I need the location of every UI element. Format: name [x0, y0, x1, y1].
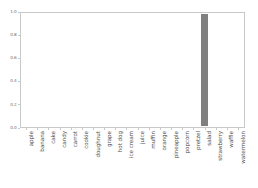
bar-slot — [110, 14, 121, 126]
x-axis-tick-mark — [182, 128, 183, 130]
y-axis-tick-label: 0.8 — [10, 33, 18, 37]
x-axis-tick — [43, 128, 54, 130]
x-axis-label-slot: waffle — [222, 131, 233, 188]
x-axis-tick-mark — [138, 128, 139, 130]
y-axis-tick: 0.2 — [10, 101, 20, 109]
bar-slot — [77, 14, 88, 126]
bar-slot — [66, 14, 77, 126]
bar-slot — [121, 14, 132, 126]
x-axis-tick — [66, 128, 77, 130]
y-axis-tick: 1.0 — [10, 8, 20, 16]
x-axis-tick-mark — [37, 128, 38, 130]
x-axis-label-slot: strawberry — [211, 131, 222, 188]
y-axis-tick-label: 0.4 — [10, 79, 18, 83]
y-axis-tick-label: 0.6 — [10, 56, 18, 60]
bar-slot — [221, 14, 232, 126]
x-axis-tick — [233, 128, 244, 130]
x-axis-tick-mark — [93, 128, 94, 130]
x-axis-tick-mark — [115, 128, 116, 130]
x-axis-label-slot: popcorn — [177, 131, 188, 188]
x-axis-label-slot: banana — [32, 131, 43, 188]
bar-slot — [155, 14, 166, 126]
bar-slot — [88, 14, 99, 126]
x-axis-label-slot: pineapple — [166, 131, 177, 188]
y-axis-tick: 0.0 — [10, 124, 20, 132]
bar-slot — [55, 14, 66, 126]
x-axis-label-slot: cookie — [77, 131, 88, 188]
x-axis-tick-mark — [104, 128, 105, 130]
x-axis-tick-mark — [238, 128, 239, 130]
x-axis-tick-mark — [193, 128, 194, 130]
x-axis-tick — [155, 128, 166, 130]
bar-slot — [166, 14, 177, 126]
x-axis-label-slot: watermelon — [233, 131, 244, 188]
x-axis-label-slot: candy — [54, 131, 65, 188]
x-axis-label-slot: orange — [155, 131, 166, 188]
x-axis-label-watermelon: watermelon — [241, 131, 247, 164]
x-axis-tick — [211, 128, 222, 130]
x-axis-tick — [121, 128, 132, 130]
x-axis-labels: applebananacakecandycarrotcookiedoughnut… — [21, 131, 244, 188]
bars-layer — [22, 14, 243, 126]
bar-slot — [22, 14, 33, 126]
x-axis-label-slot: grape — [99, 131, 110, 188]
x-axis-label-slot: apple — [21, 131, 32, 188]
x-axis-tick — [177, 128, 188, 130]
bar-slot — [144, 14, 155, 126]
y-axis-tick: 0.4 — [10, 78, 20, 86]
y-axis-tick-label: 0.0 — [10, 126, 18, 130]
x-axis-label-slot: ice cream — [121, 131, 132, 188]
y-axis-tick: 0.8 — [10, 31, 20, 39]
x-axis-label-slot: hot dog — [110, 131, 121, 188]
x-axis-label-slot: doughnut — [88, 131, 99, 188]
x-axis-tick-mark — [149, 128, 150, 130]
x-axis-tick — [144, 128, 155, 130]
bar-slot — [188, 14, 199, 126]
bar-slot — [232, 14, 243, 126]
bar-slot — [99, 14, 110, 126]
x-axis-tick — [32, 128, 43, 130]
y-axis-tick: 0.6 — [10, 54, 20, 62]
x-axis-label-slot: juice — [133, 131, 144, 188]
x-axis-label-slot: carrot — [66, 131, 77, 188]
x-axis-tick-mark — [171, 128, 172, 130]
plot-area — [20, 12, 245, 128]
x-axis-label-slot: cake — [43, 131, 54, 188]
x-axis-tick — [133, 128, 144, 130]
x-axis-label-slot: pretzel — [188, 131, 199, 188]
x-axis-tick — [110, 128, 121, 130]
x-axis-tick — [77, 128, 88, 130]
bar-chart-figure: 0.00.20.40.60.81.0 applebananacakecandyc… — [0, 0, 258, 188]
bar-slot — [199, 14, 210, 126]
bar-salad[interactable] — [201, 14, 208, 126]
bar-slot — [44, 14, 55, 126]
x-axis-label-slot: salad — [200, 131, 211, 188]
x-axis-label-slot: muffin — [144, 131, 155, 188]
x-axis-tick-mark — [216, 128, 217, 130]
x-axis-tick-mark — [71, 128, 72, 130]
bar-slot — [33, 14, 44, 126]
x-axis-tick-mark — [126, 128, 127, 130]
y-axis: 0.00.20.40.60.81.0 — [0, 12, 20, 128]
x-axis-tick — [188, 128, 199, 130]
x-axis-tick-mark — [160, 128, 161, 130]
x-axis-tick-mark — [26, 128, 27, 130]
y-axis-tick-label: 0.2 — [10, 103, 18, 107]
bar-slot — [132, 14, 143, 126]
bar-slot — [210, 14, 221, 126]
bar-slot — [177, 14, 188, 126]
x-axis-tick-mark — [48, 128, 49, 130]
y-axis-tick-label: 1.0 — [10, 10, 18, 14]
x-axis-tick — [166, 128, 177, 130]
x-axis-tick-mark — [82, 128, 83, 130]
x-axis-tick — [21, 128, 32, 130]
